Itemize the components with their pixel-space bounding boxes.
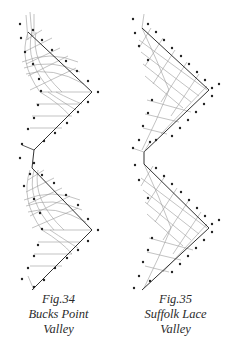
- pin-holes: [19, 23, 99, 288]
- figure-35-name-line1: Suffolk Lace: [117, 307, 234, 322]
- thread-lines-lower: [24, 170, 92, 290]
- figure-34-name-line2: Valley: [0, 322, 117, 337]
- figure-34-name-line1: Bucks Point: [0, 307, 117, 322]
- figure-34-number: Fig.34: [0, 292, 117, 307]
- grid-lines-lower: [141, 164, 207, 288]
- pin-holes: [132, 18, 220, 289]
- figure-34-caption: Fig.34 Bucks Point Valley: [0, 292, 117, 337]
- figure-35-caption: Fig.35 Suffolk Lace Valley: [117, 292, 234, 337]
- bucks-point-valley-pricking: [0, 0, 117, 292]
- figure-35-name-line2: Valley: [117, 322, 234, 337]
- figure-34-diagram: [0, 0, 117, 292]
- suffolk-lace-valley-pricking: [117, 0, 234, 292]
- outline-lower: [32, 150, 92, 290]
- figure-35-diagram: [117, 0, 234, 292]
- figure-35-number: Fig.35: [117, 292, 234, 307]
- outline-upper: [28, 32, 92, 150]
